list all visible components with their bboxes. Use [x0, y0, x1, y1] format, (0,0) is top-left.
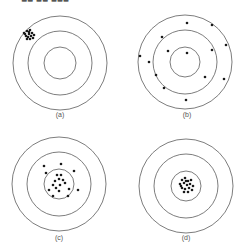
shot-dot [33, 34, 36, 37]
shot-dot [190, 179, 193, 182]
panel-caption: (b) [183, 111, 192, 119]
shot-dot [211, 24, 214, 27]
shot-dot [184, 188, 187, 191]
shot-dot [48, 189, 51, 192]
middle-ring [154, 154, 218, 218]
shot-dot [60, 174, 63, 177]
shot-dot [180, 185, 183, 188]
outer-ring [139, 139, 233, 233]
shot-dot [26, 38, 29, 41]
shot-dot [161, 36, 164, 39]
shot-dot [31, 32, 34, 35]
target-panel-d: (d) [139, 139, 233, 242]
middle-ring [28, 31, 92, 95]
shot-dot [54, 180, 57, 183]
shot-dot [58, 190, 61, 193]
shot-dot [62, 179, 65, 182]
inner-ring [44, 47, 76, 79]
shot-dot [183, 191, 186, 194]
shot-dot [52, 184, 55, 187]
target-accuracy-precision-diagram: (a) (b) (c) (d) [0, 0, 241, 248]
shot-dot [45, 172, 48, 175]
shot-dot [73, 170, 76, 173]
shot-dot [58, 178, 61, 181]
shot-dot [163, 87, 166, 90]
inner-ring [44, 169, 74, 199]
inner-ring [170, 47, 200, 77]
panel-caption: (a) [56, 111, 65, 119]
shot-dot [185, 99, 188, 102]
shot-dot [186, 52, 189, 55]
outer-ring [138, 15, 232, 109]
middle-ring [27, 152, 91, 216]
shot-dot [225, 44, 228, 47]
shot-dot [192, 185, 195, 188]
shot-dot [52, 195, 55, 198]
shot-dot [183, 182, 186, 185]
shot-dot [148, 61, 151, 64]
panel-caption: (c) [55, 234, 63, 242]
shot-dot [204, 76, 207, 79]
shot-dot [77, 189, 80, 192]
target-panel-c: (c) [12, 137, 106, 242]
shot-dot [181, 179, 184, 182]
shot-dot [32, 37, 35, 40]
shot-dot [188, 187, 191, 190]
shot-dot [186, 22, 189, 25]
shot-dot [64, 182, 67, 185]
shot-dot [211, 49, 214, 52]
shot-dot [189, 183, 192, 186]
shot-dot [67, 195, 70, 198]
shot-dot [43, 165, 46, 168]
shot-dot [186, 184, 189, 187]
shot-dot [139, 55, 142, 58]
shot-dot [187, 191, 190, 194]
panel-caption: (d) [182, 234, 191, 242]
shot-dot [223, 78, 226, 81]
shot-dot [59, 184, 62, 187]
shot-dot [191, 189, 194, 192]
shot-dot [60, 163, 63, 166]
target-panel-b: (b) [138, 15, 232, 119]
inner-ring [171, 171, 201, 201]
target-panel-a: (a) [13, 16, 107, 119]
shot-dot [56, 174, 59, 177]
shot-dot [29, 38, 32, 41]
shot-dot [185, 180, 188, 183]
shot-dot [167, 50, 170, 53]
shot-dot [184, 177, 187, 180]
shot-dot [24, 33, 27, 36]
shot-dot [30, 35, 33, 38]
shot-dot [28, 31, 31, 34]
shot-dot [68, 188, 71, 191]
middle-ring [153, 30, 217, 94]
shot-dot [55, 187, 58, 190]
outer-ring [12, 137, 106, 231]
shot-dot [155, 74, 158, 77]
